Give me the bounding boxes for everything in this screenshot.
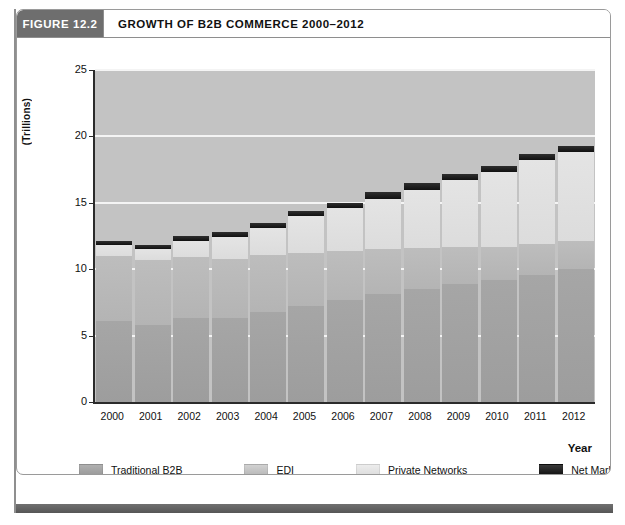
legend-item[interactable]: Net Markets: [539, 464, 611, 476]
bar-segment[interactable]: [404, 190, 440, 248]
bar-segment[interactable]: [96, 321, 132, 402]
legend-item[interactable]: Private Networks: [356, 464, 467, 476]
bar-column[interactable]: [135, 70, 171, 402]
bar-segment[interactable]: [250, 255, 286, 312]
bar-segment[interactable]: [481, 166, 517, 173]
bar-segment[interactable]: [365, 192, 401, 199]
x-axis-title: Year: [568, 442, 592, 454]
bar-segment[interactable]: [212, 318, 248, 402]
figure-container: FIGURE 12.2 GROWTH OF B2B COMMERCE 2000–…: [16, 9, 611, 475]
chart-legend: Traditional B2BEDIPrivate NetworksNet Ma…: [79, 458, 595, 475]
bar-segment[interactable]: [96, 245, 132, 256]
page-bottom-rule: [16, 504, 613, 513]
bar-column[interactable]: [404, 70, 440, 402]
x-tick-label: 2004: [254, 410, 277, 422]
bar-segment[interactable]: [288, 306, 324, 402]
x-tick-label: 2007: [370, 410, 393, 422]
y-tick-mark: [89, 203, 94, 204]
bar-column[interactable]: [212, 70, 248, 402]
bar-segment[interactable]: [442, 247, 478, 284]
chart-canvas: (Trillions) 0510152025 20002001200220032…: [17, 38, 610, 475]
legend-item[interactable]: Traditional B2B: [79, 464, 182, 476]
y-tick-label: 0: [57, 395, 87, 407]
legend-swatch: [356, 464, 380, 476]
bar-segment[interactable]: [519, 154, 555, 161]
y-tick-mark: [89, 402, 94, 403]
bar-segment[interactable]: [481, 280, 517, 402]
legend-label: EDI: [276, 464, 294, 475]
bar-segment[interactable]: [96, 256, 132, 321]
y-tick-mark: [89, 269, 94, 270]
x-tick-label: 2008: [408, 410, 431, 422]
y-tick-label: 10: [57, 262, 87, 274]
y-tick-mark: [89, 136, 94, 137]
bar-segment[interactable]: [442, 174, 478, 181]
legend-label: Traditional B2B: [111, 464, 182, 475]
bar-column[interactable]: [173, 70, 209, 402]
legend-swatch: [79, 464, 103, 476]
bar-segment[interactable]: [173, 257, 209, 318]
bar-segment[interactable]: [519, 244, 555, 275]
bar-column[interactable]: [481, 70, 517, 402]
bar-segment[interactable]: [212, 259, 248, 319]
legend-label: Net Markets: [571, 464, 611, 475]
x-tick-label: 2000: [101, 410, 124, 422]
bar-segment[interactable]: [135, 260, 171, 325]
bar-segment[interactable]: [558, 241, 594, 269]
bar-segment[interactable]: [481, 247, 517, 280]
bar-column[interactable]: [365, 70, 401, 402]
x-tick-label: 2001: [139, 410, 162, 422]
bar-column[interactable]: [442, 70, 478, 402]
y-tick-label: 20: [57, 129, 87, 141]
x-tick-label: 2009: [447, 410, 470, 422]
bar-segment[interactable]: [519, 160, 555, 244]
bar-segment[interactable]: [327, 300, 363, 402]
bar-segment[interactable]: [212, 237, 248, 258]
bar-segment[interactable]: [250, 312, 286, 402]
figure-title: GROWTH OF B2B COMMERCE 2000–2012: [118, 18, 364, 30]
bar-segment[interactable]: [519, 275, 555, 402]
y-tick-label: 25: [57, 63, 87, 75]
figure-header: FIGURE 12.2 GROWTH OF B2B COMMERCE 2000–…: [17, 10, 610, 38]
x-tick-label: 2005: [293, 410, 316, 422]
x-tick-label: 2010: [485, 410, 508, 422]
legend-swatch: [244, 464, 268, 476]
bar-segment[interactable]: [558, 269, 594, 402]
bar-segment[interactable]: [365, 249, 401, 294]
y-tick-label: 5: [57, 329, 87, 341]
bar-segment[interactable]: [288, 216, 324, 253]
bar-segment[interactable]: [404, 289, 440, 402]
y-axis-title: (Trillions): [21, 98, 39, 145]
bar-segment[interactable]: [250, 228, 286, 255]
bar-column[interactable]: [327, 70, 363, 402]
x-tick-label: 2006: [331, 410, 354, 422]
bar-segment[interactable]: [558, 152, 594, 241]
bar-column[interactable]: [288, 70, 324, 402]
bar-column[interactable]: [519, 70, 555, 402]
legend-swatch: [539, 464, 563, 476]
bar-segment[interactable]: [404, 183, 440, 190]
bar-column[interactable]: [250, 70, 286, 402]
bar-segment[interactable]: [288, 253, 324, 306]
bar-segment[interactable]: [558, 146, 594, 153]
figure-number-label: FIGURE 12.2: [22, 18, 97, 30]
plot-area: [93, 70, 595, 404]
bar-segment[interactable]: [327, 208, 363, 250]
bar-segment[interactable]: [365, 199, 401, 249]
legend-item[interactable]: EDI: [244, 464, 294, 476]
bar-segment[interactable]: [173, 318, 209, 402]
bar-segment[interactable]: [327, 251, 363, 300]
bar-segment[interactable]: [481, 172, 517, 246]
bar-segment[interactable]: [442, 284, 478, 402]
legend-label: Private Networks: [388, 464, 467, 475]
bar-segment[interactable]: [135, 325, 171, 402]
bar-segment[interactable]: [135, 249, 171, 260]
bar-segment[interactable]: [173, 241, 209, 257]
bar-segment[interactable]: [365, 294, 401, 402]
bar-column[interactable]: [96, 70, 132, 402]
bar-segment[interactable]: [404, 248, 440, 289]
bar-segment[interactable]: [442, 180, 478, 246]
bar-column[interactable]: [558, 70, 594, 402]
x-tick-label: 2011: [524, 410, 547, 422]
figure-number-badge: FIGURE 12.2: [17, 10, 103, 37]
